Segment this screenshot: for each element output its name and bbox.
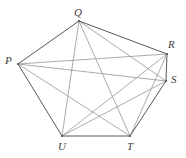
vertex-label-u: U <box>58 141 66 152</box>
vertex-label-t: T <box>127 141 133 152</box>
perimeter-edge-qr <box>79 21 167 54</box>
graph-canvas <box>0 0 186 158</box>
vertex-label-p: P <box>5 55 12 66</box>
perimeter-edge-up <box>18 64 62 136</box>
vertex-label-s: S <box>171 74 177 85</box>
vertex-dot-u <box>61 135 63 137</box>
vertex-dot-r <box>166 53 168 55</box>
diagonal-edge-pr <box>18 54 167 64</box>
diagonal-edge-qu <box>62 21 79 136</box>
vertex-dot-p <box>17 63 19 65</box>
graph-diagram: PQRSTU <box>0 0 186 158</box>
diagonal-edges-group <box>18 21 167 136</box>
diagonal-edge-rt <box>130 54 167 136</box>
vertex-label-q: Q <box>74 7 82 18</box>
diagonal-edge-ru <box>62 54 167 136</box>
vertex-label-r: R <box>168 39 175 50</box>
vertex-dot-t <box>129 135 131 137</box>
vertex-dot-s <box>165 80 167 82</box>
diagonal-edge-su <box>62 81 166 136</box>
vertex-dot-q <box>78 20 80 22</box>
perimeter-edge-rs <box>166 54 167 81</box>
perimeter-edge-pq <box>18 21 79 64</box>
perimeter-edge-st <box>130 81 166 136</box>
